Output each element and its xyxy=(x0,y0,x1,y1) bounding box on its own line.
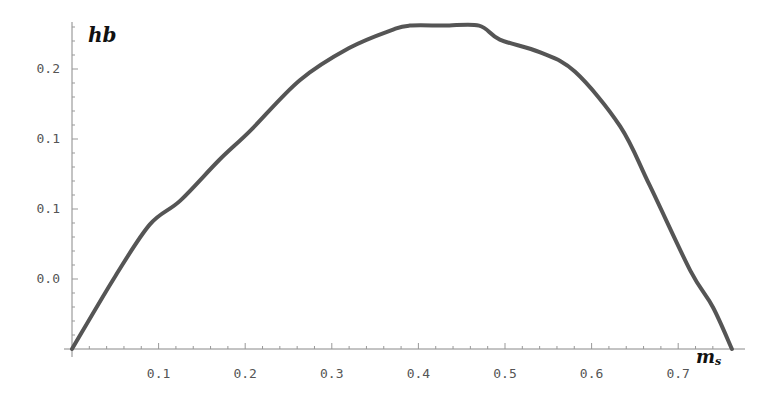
x-tick-label: 0.3 xyxy=(320,366,343,381)
x-tick-label: 0.4 xyxy=(407,366,431,381)
x-axis-title-main: m xyxy=(696,346,715,367)
y-tick-label: 0.2 xyxy=(37,61,60,76)
data-curve xyxy=(72,25,732,349)
y-tick-label: 0.0 xyxy=(37,271,60,286)
axis-ticks xyxy=(72,27,730,349)
x-axis-title-subscript: s xyxy=(715,355,721,368)
x-tick-label: 0.7 xyxy=(666,366,689,381)
y-tick-label: 0.1 xyxy=(37,201,60,216)
y-tick-label: 0.1 xyxy=(37,131,60,146)
axes xyxy=(64,22,745,357)
x-tick-label: 0.2 xyxy=(233,366,256,381)
y-axis-title: hb xyxy=(88,23,117,47)
tick-labels: 0.10.20.30.40.50.60.70.00.10.10.2 xyxy=(37,61,690,381)
line-chart: 0.10.20.30.40.50.60.70.00.10.10.2 hb ms xyxy=(0,0,763,393)
x-tick-label: 0.1 xyxy=(147,366,170,381)
x-tick-label: 0.5 xyxy=(493,366,516,381)
x-tick-label: 0.6 xyxy=(580,366,603,381)
